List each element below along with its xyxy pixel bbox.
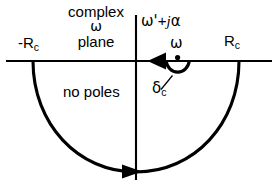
axis-expression-label: ω'+jα (141, 13, 181, 29)
pole-point-marker (175, 55, 180, 60)
axis-expression-alpha: α (171, 12, 181, 30)
plane-note-line-complex: complex (57, 4, 135, 19)
small-pole-detour-path (166, 61, 189, 73)
axis-expression-omega-prime: ω' (141, 12, 158, 30)
arc-travel-arrowhead (122, 165, 142, 179)
detour-subscript: c (161, 86, 166, 98)
pos-radius-subscript: c (235, 39, 240, 51)
plane-note-line-plane: plane (57, 34, 135, 49)
pole-omega-label: ω (170, 36, 183, 51)
plane-note-label: complex ω plane (57, 4, 135, 49)
pos-radius-main: R (224, 32, 235, 49)
plane-note-line-omega: ω (57, 19, 135, 33)
neg-radius-label: -Rc (18, 35, 39, 53)
complex-plane-contour-figure: complex ω plane ω'+jα -Rc Rc ω δc no pol… (0, 0, 278, 186)
neg-radius-main: -R (18, 34, 34, 51)
axis-travel-arrowhead (148, 53, 167, 70)
neg-radius-subscript: c (34, 41, 39, 53)
region-note-label: no poles (63, 84, 120, 99)
detour-main: δ (152, 79, 161, 97)
contour-drawing (0, 0, 278, 186)
detour-radius-label: δc (152, 80, 166, 98)
pos-radius-label: Rc (224, 33, 240, 51)
